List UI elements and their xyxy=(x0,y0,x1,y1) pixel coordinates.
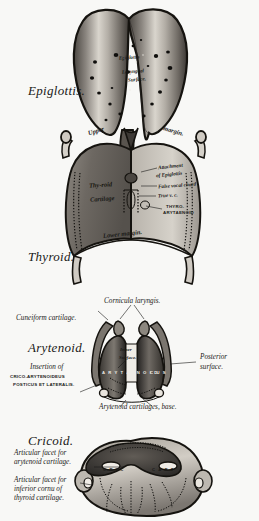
label-arytenoid-base: Arytenoid cartilages, base. xyxy=(99,404,176,412)
label-arytaenoid-cus: C U S xyxy=(150,371,167,375)
label-insertion-of: Insertion of xyxy=(30,364,63,372)
figure-caption-thyroid: Thyroid. xyxy=(28,250,74,264)
label-facet-thyroid-3: thyroid cartilage. xyxy=(14,495,64,503)
label-cricoid-inner-right: C A R T xyxy=(152,468,175,472)
figure-caption-epiglottis: Epiglottis. xyxy=(28,84,85,98)
label-cricoid-inner-left: C R I C xyxy=(103,468,124,472)
label-inner-surface: Surface. xyxy=(119,355,136,360)
label-facet-arytenoid-1: Articular facet for xyxy=(14,450,66,458)
figure-caption-cricoid: Cricoid. xyxy=(28,434,73,448)
figure-caption-arytenoid: Arytenoid. xyxy=(28,341,86,355)
label-inner: Inner xyxy=(120,347,132,352)
label-true-vocal-chord: True v. c. xyxy=(158,192,178,198)
label-posterior-1: Posterior xyxy=(200,354,227,362)
label-posterior-surface: surface. xyxy=(200,364,223,372)
label-thyro: THYRO- xyxy=(166,205,184,210)
anatomical-plate: Epiglottis. Epiglottis Laryngeal Surface… xyxy=(0,0,259,521)
label-cuneiform-cartilage: Cuneiform cartilage. xyxy=(16,315,76,323)
label-facet-arytenoid-2: arytenoid cartilage. xyxy=(14,459,71,467)
label-cornicula-laryngis: Cornicula laryngis. xyxy=(104,298,160,306)
label-facet-thyroid-1: Articular facet for xyxy=(14,477,66,485)
arytenoid-drawing xyxy=(80,305,196,407)
label-crico-arytenoideus: CRICO-ARYTENOIDEUS xyxy=(10,375,65,380)
label-posticus-lateralis: POSTICUS ET LATERALIS. xyxy=(13,383,75,388)
cricoid-drawing xyxy=(75,438,212,516)
label-thyro-arytenoid: ARYTAENOID xyxy=(163,211,194,216)
label-facet-thyroid-2: inferior cornu of xyxy=(14,486,62,494)
